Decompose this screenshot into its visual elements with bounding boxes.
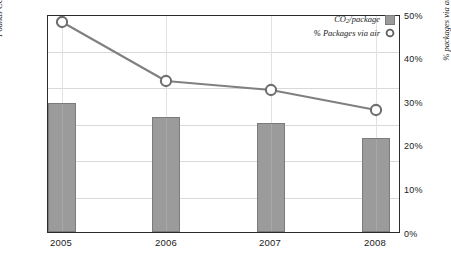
legend-square-swatch-icon [385,15,395,25]
legend-label-post: /package [349,14,380,24]
x-axis-tick-2005: 2005 [31,237,91,248]
y-axis-right-tick: 50% [404,11,444,21]
y-axis-right-tick: 0% [404,229,444,239]
legend: CO2/package % Packages via air [289,13,395,39]
legend-item-packages-via-air: % Packages via air [289,26,395,39]
x-axis-tick-2006: 2006 [136,237,196,248]
y-axis-left-title-pre: Pounds CO [0,0,4,37]
line-marker-2008 [371,105,381,115]
y-axis-right-tick: 30% [404,98,444,108]
legend-item-co2-package: CO2/package [289,13,395,26]
y-axis-right-tick: 10% [404,185,444,195]
y-axis-right-tick: 20% [404,141,444,151]
y-axis-right-tick: 40% [404,54,444,64]
line-marker-2007 [266,85,276,95]
legend-label-co2-package: CO2/package [334,14,380,24]
line-marker-2005 [57,17,67,27]
plot-area [47,15,400,233]
legend-label-packages-via-air: % Packages via air [314,28,380,38]
x-axis-tick-2007: 2007 [240,237,300,248]
line-series-packages-via-air [48,16,401,234]
legend-label-pre: CO [334,14,346,24]
y-axis-left-title: Pounds CO2/package [0,0,4,60]
x-axis-tick-2008: 2008 [345,237,405,248]
line-marker-2006 [161,76,171,86]
legend-circle-marker-icon [385,28,395,38]
